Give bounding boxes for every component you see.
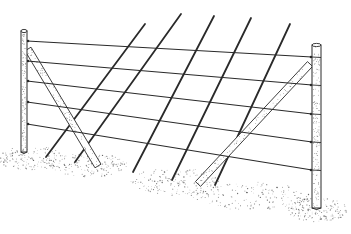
- fence-wire: [27, 81, 312, 114]
- diagonal-rods: [46, 14, 290, 185]
- diagonal-rod: [133, 16, 214, 172]
- wire-wrap: [312, 57, 321, 58]
- fence-drawing: [0, 0, 351, 234]
- fence-wire: [27, 124, 312, 170]
- right-post: [312, 43, 321, 209]
- left-post: [21, 29, 27, 153]
- wire-wrap: [312, 114, 321, 115]
- fence-illustration: Fence with end posts, braces, wires and …: [0, 0, 351, 234]
- wire-wrap: [312, 85, 321, 86]
- diagonal-rod: [46, 24, 145, 157]
- wire-wrap: [312, 142, 321, 143]
- fence-wire: [27, 61, 312, 85]
- fence-wire: [27, 41, 312, 57]
- wire-wrap: [312, 170, 321, 171]
- ground-stipple: [0, 147, 347, 223]
